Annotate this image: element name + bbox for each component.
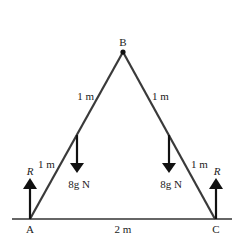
label-c: C	[212, 223, 219, 235]
label-a: A	[26, 223, 34, 235]
label-left-reaction: R	[26, 165, 34, 177]
rod-diagram: B 1 m 1 m 1 m 1 m 8g N 8g N R R A 2 m C	[0, 0, 243, 241]
weight-arrow-left	[70, 135, 84, 173]
label-lower-left-length: 1 m	[38, 158, 55, 170]
label-right-weight: 8g N	[160, 178, 182, 190]
label-b: B	[119, 36, 126, 48]
reaction-arrow-left	[23, 178, 37, 219]
hinge-b	[120, 49, 125, 54]
label-left-weight: 8g N	[68, 178, 90, 190]
label-upper-left-length: 1 m	[77, 90, 94, 102]
weight-arrow-right	[162, 135, 176, 173]
label-base-length: 2 m	[115, 223, 132, 235]
label-upper-right-length: 1 m	[152, 90, 169, 102]
label-right-reaction: R	[213, 165, 221, 177]
label-lower-right-length: 1 m	[191, 158, 208, 170]
